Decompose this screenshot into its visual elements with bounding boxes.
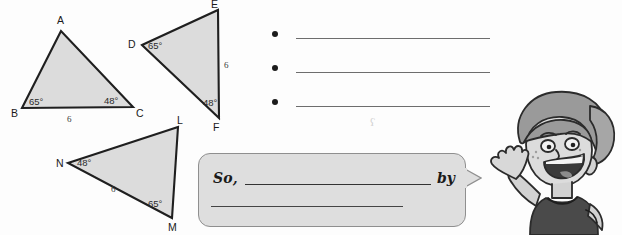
- triangle-abc-angle-c-measure: 48°: [104, 95, 119, 106]
- triangle-abc: A B C 65° 48° 6: [11, 14, 144, 124]
- waving-hand: [491, 146, 528, 179]
- list-item: [272, 26, 497, 60]
- triangle-abc-angle-b-measure: 65°: [29, 96, 44, 107]
- triangle-lmn-vertex-l-label: L: [177, 114, 183, 126]
- bullet-dot-icon: [272, 65, 278, 71]
- answer-blank-line-3[interactable]: [296, 106, 490, 107]
- triangle-lmn-angle-m-measure: 65°: [148, 198, 163, 209]
- triangle-abc-vertex-c-label: C: [136, 107, 144, 119]
- bullet-dot-icon: [272, 99, 278, 105]
- worksheet-canvas: A B C 65° 48° 6 E D F 65° 48° 6 L M N 48…: [0, 0, 622, 235]
- neck: [552, 182, 572, 198]
- triangle-def-vertex-f-label: F: [213, 121, 219, 133]
- conclusion-speech-bubble: So, by: [198, 153, 466, 227]
- conclusion-blank-line-1[interactable]: [245, 184, 431, 185]
- list-item: [272, 94, 497, 128]
- answer-blank-line-1[interactable]: [296, 38, 490, 39]
- triangle-abc-vertex-b-label: B: [11, 107, 18, 119]
- triangle-def-side-ef-length: 6: [224, 60, 229, 70]
- triangle-lmn-vertex-m-label: M: [168, 221, 177, 233]
- triangle-def-angle-d-measure: 65°: [148, 40, 163, 51]
- bullet-dot-icon: [272, 31, 278, 37]
- pupil-right: [571, 143, 576, 148]
- triangle-lmn-side-nm-length: 6: [111, 184, 116, 194]
- waving-cartoon-boy: [486, 86, 622, 235]
- speech-bubble-tail-icon: [464, 168, 482, 188]
- triangle-lmn-vertex-n-label: N: [56, 157, 64, 169]
- triangle-def-vertex-d-label: D: [128, 38, 136, 50]
- triangle-abc-side-bc-length: 6: [67, 114, 72, 124]
- triangle-def-angle-f-measure: 48°: [203, 97, 218, 108]
- list-item: [272, 60, 497, 94]
- triangle-abc-vertex-a-label: A: [57, 14, 64, 26]
- triangle-lmn-angle-n-measure: 48°: [77, 157, 92, 168]
- triangle-lmn: L M N 48° 65° 6: [56, 114, 183, 233]
- triangle-def-vertex-e-label: E: [211, 0, 218, 10]
- pupil-left: [547, 145, 552, 150]
- answer-blank-line-2[interactable]: [296, 72, 490, 73]
- conclusion-blank-line-2[interactable]: [211, 206, 403, 207]
- conclusion-connector-label: by: [437, 170, 455, 186]
- conclusion-lead-label: So,: [213, 170, 238, 186]
- answer-bullet-list: [272, 26, 497, 128]
